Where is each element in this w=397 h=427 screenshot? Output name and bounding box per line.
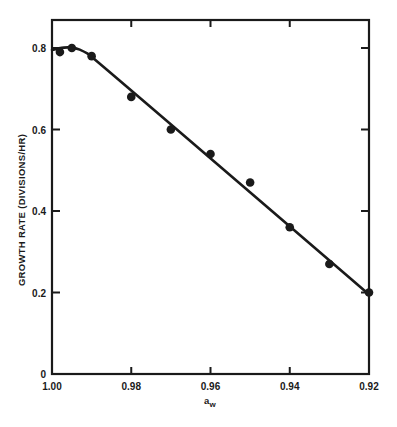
plot-frame [52,20,369,374]
x-tick-label: 0.94 [280,381,300,392]
data-point [68,44,77,53]
x-tick-label: 0.96 [201,381,221,392]
data-point [206,150,215,159]
x-tick-label: 0.92 [359,381,379,392]
data-point [246,178,255,187]
y-tick-label: 0.6 [32,125,46,136]
data-point [127,93,136,102]
data-point [285,223,294,232]
growth-rate-chart: 1.000.980.960.940.92 00.20.40.60.8 aw GR… [0,0,397,427]
y-axis-title: GROWTH RATE (DIVISIONS/HR) [16,134,27,286]
x-axis-title-sub: w [209,400,217,409]
x-tick-label: 1.00 [42,381,62,392]
y-tick-label: 0 [40,369,46,380]
x-tick-label: 0.98 [122,381,142,392]
data-point [325,260,334,269]
y-tick-label: 0.2 [32,288,46,299]
data-point [56,48,65,57]
y-tick-labels: 00.20.40.60.8 [32,43,46,380]
axis-ticks [52,20,369,374]
x-tick-labels: 1.000.980.960.940.92 [42,381,379,392]
y-tick-label: 0.8 [32,43,46,54]
fitted-curve [52,47,369,294]
data-point [87,52,96,61]
data-point [167,125,176,134]
data-point [365,288,374,297]
y-tick-label: 0.4 [32,206,46,217]
x-axis-title: aw [204,395,217,409]
